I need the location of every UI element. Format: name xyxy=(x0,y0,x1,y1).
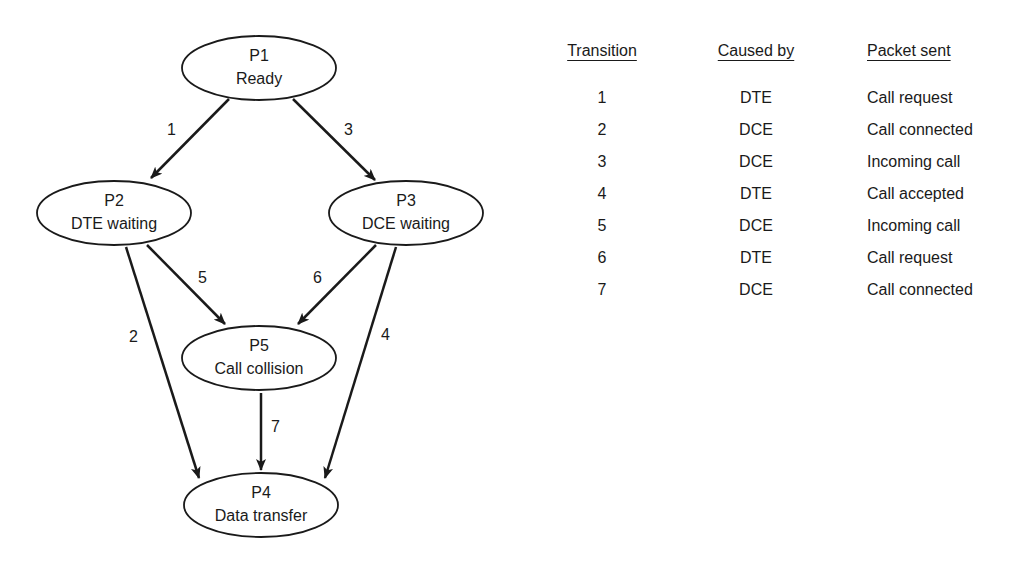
header-caused-by: Caused by xyxy=(708,42,804,60)
edge-label-1: 1 xyxy=(167,121,176,138)
node-p5: P5 Call collision xyxy=(182,326,336,390)
node-p3: P3 DCE waiting xyxy=(329,181,483,245)
cell-transition: 7 xyxy=(554,281,650,299)
node-p5-id: P5 xyxy=(249,337,269,354)
cell-caused-by: DCE xyxy=(708,217,804,235)
cell-packet-sent: Call request xyxy=(867,89,952,107)
edge-7: 7 xyxy=(261,393,280,470)
node-p3-id: P3 xyxy=(396,192,416,209)
cell-transition: 4 xyxy=(554,185,650,203)
node-p1-id: P1 xyxy=(249,47,269,64)
edge-label-4: 4 xyxy=(381,326,390,343)
node-p1-label: Ready xyxy=(236,70,282,87)
cell-caused-by: DCE xyxy=(708,281,804,299)
state-diagram: 1 3 2 5 6 4 7 P1 Ready P2 DTE waiting P3… xyxy=(0,0,520,568)
edge-6: 6 xyxy=(298,245,376,324)
node-p5-label: Call collision xyxy=(215,360,304,377)
edge-1: 1 xyxy=(151,99,229,178)
edge-label-6: 6 xyxy=(313,269,322,286)
cell-packet-sent: Incoming call xyxy=(867,217,960,235)
node-p4-label: Data transfer xyxy=(215,507,308,524)
node-p4-id: P4 xyxy=(251,484,271,501)
cell-caused-by: DTE xyxy=(708,185,804,203)
cell-transition: 5 xyxy=(554,217,650,235)
cell-packet-sent: Call accepted xyxy=(867,185,964,203)
header-packet-sent: Packet sent xyxy=(867,42,951,60)
cell-packet-sent: Call connected xyxy=(867,121,973,139)
edge-5: 5 xyxy=(147,245,225,324)
cell-caused-by: DTE xyxy=(708,249,804,267)
cell-transition: 1 xyxy=(554,89,650,107)
cell-caused-by: DCE xyxy=(708,121,804,139)
cell-caused-by: DCE xyxy=(708,153,804,171)
node-p4: P4 Data transfer xyxy=(184,473,338,537)
cell-packet-sent: Call connected xyxy=(867,281,973,299)
cell-transition: 3 xyxy=(554,153,650,171)
cell-caused-by: DTE xyxy=(708,89,804,107)
node-p3-label: DCE waiting xyxy=(362,215,450,232)
node-p2: P2 DTE waiting xyxy=(37,181,191,245)
edge-3: 3 xyxy=(293,99,375,180)
edge-label-7: 7 xyxy=(271,418,280,435)
node-p2-label: DTE waiting xyxy=(71,215,157,232)
node-p1: P1 Ready xyxy=(182,36,336,100)
edge-label-3: 3 xyxy=(344,121,353,138)
cell-packet-sent: Call request xyxy=(867,249,952,267)
cell-transition: 2 xyxy=(554,121,650,139)
node-p2-id: P2 xyxy=(104,192,124,209)
cell-transition: 6 xyxy=(554,249,650,267)
edge-label-2: 2 xyxy=(129,328,138,345)
cell-packet-sent: Incoming call xyxy=(867,153,960,171)
edge-label-5: 5 xyxy=(198,269,207,286)
header-transition: Transition xyxy=(554,42,650,60)
